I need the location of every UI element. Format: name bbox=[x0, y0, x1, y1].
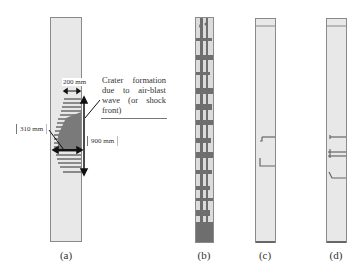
panel-label-a: (a) bbox=[51, 249, 81, 261]
panel-label-b: (b) bbox=[189, 249, 219, 261]
cracks-d bbox=[327, 26, 346, 242]
cracks-c bbox=[256, 26, 275, 242]
figure-graphics bbox=[0, 0, 361, 278]
width-310-label: 310 mm bbox=[16, 124, 47, 134]
crater-annotation: Crater formation due to air-blast wave (… bbox=[102, 75, 166, 115]
crater-annotation-underline bbox=[101, 118, 167, 119]
damage-pattern-b bbox=[196, 18, 213, 242]
crater-damage-a bbox=[54, 98, 81, 173]
width-200-label: 200 mm bbox=[62, 78, 87, 86]
panel-label-c: (c) bbox=[250, 249, 280, 261]
height-900-label: 900 mm bbox=[87, 136, 118, 146]
panel-label-d: (d) bbox=[321, 249, 351, 261]
